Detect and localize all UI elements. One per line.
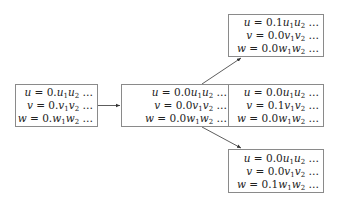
node-out-w: u = 0.0u1u2 … v = 0.0v1v2 … w = 0.1w1w2 …: [228, 149, 324, 193]
node-root: u = 0.u1u2 … v = 0.v1v2 … w = 0.w1w2 …: [15, 84, 98, 127]
node-out-u: u = 0.1u1u2 … v = 0.0v1v2 … w = 0.0w1w2 …: [228, 14, 324, 57]
node-mid-line-v: v = 0.0v1v2 …: [154, 99, 227, 112]
node-out-w-line-u: u = 0.0u1u2 …: [244, 152, 319, 165]
node-mid: u = 0.0u1u2 … v = 0.0v1v2 … w = 0.0w1w2 …: [121, 84, 232, 127]
node-out-u-line-v: v = 0.0v1v2 …: [246, 29, 319, 42]
node-out-u-line-w: w = 0.0w1w2 …: [237, 42, 319, 55]
node-out-w-line-w: w = 0.1w1w2 …: [237, 178, 319, 191]
node-mid-line-w: w = 0.0w1w2 …: [145, 112, 227, 125]
edge-mid-to-out-u: [202, 58, 241, 84]
node-out-v: u = 0.0u1u2 … v = 0.1v1v2 … w = 0.0w1w2 …: [228, 84, 324, 127]
node-root-line-u: u = 0.u1u2 …: [24, 86, 93, 99]
node-out-w-line-v: v = 0.0v1v2 …: [246, 165, 319, 178]
node-out-v-line-w: w = 0.0w1w2 …: [237, 112, 319, 125]
node-mid-line-u: u = 0.0u1u2 …: [152, 86, 227, 99]
node-root-line-w: w = 0.w1w2 …: [18, 112, 93, 125]
node-root-line-v: v = 0.v1v2 …: [27, 99, 93, 112]
node-out-v-line-v: v = 0.1v1v2 …: [246, 99, 319, 112]
node-out-u-line-u: u = 0.1u1u2 …: [244, 16, 319, 29]
edge-mid-to-out-w: [202, 127, 241, 148]
node-out-v-line-u: u = 0.0u1u2 …: [244, 86, 319, 99]
